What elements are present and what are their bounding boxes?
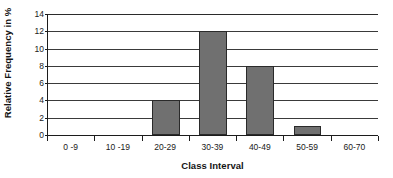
bar-series xyxy=(48,14,378,135)
x-tick-mark xyxy=(378,136,379,141)
bar-slot xyxy=(284,14,331,135)
y-axis-title: Relative Frequency in % xyxy=(0,0,14,152)
x-tick-mark xyxy=(331,136,332,141)
y-tick-label: 6 xyxy=(39,78,44,88)
y-tick-label: 14 xyxy=(35,9,44,19)
y-tick-label: 4 xyxy=(39,95,44,105)
bar xyxy=(199,31,226,135)
y-tick-label: 0 xyxy=(39,130,44,140)
y-tick-label: 10 xyxy=(35,44,44,54)
x-tick-label: 40-49 xyxy=(236,142,283,156)
bar-slot xyxy=(48,14,95,135)
bar-chart: Relative Frequency in % 02468101214 0 -9… xyxy=(0,0,393,178)
bar xyxy=(246,66,273,135)
x-axis-tick-labels: 0 -910 -1920-2930-3940-4950-5960-70 xyxy=(47,142,378,156)
bar-slot xyxy=(95,14,142,135)
x-tick-label: 0 -9 xyxy=(47,142,94,156)
x-tick-mark xyxy=(236,136,237,141)
x-tick-label: 60-70 xyxy=(331,142,378,156)
x-axis-title: Class Interval xyxy=(47,160,378,171)
bar xyxy=(152,100,179,135)
y-tick-label: 2 xyxy=(39,113,44,123)
x-tick-mark xyxy=(189,136,190,141)
x-tick-mark xyxy=(47,136,48,141)
x-tick-mark xyxy=(94,136,95,141)
x-tick-mark xyxy=(283,136,284,141)
x-axis-ticks xyxy=(47,136,378,141)
bar xyxy=(294,126,321,135)
bar-slot xyxy=(237,14,284,135)
plot-area: 02468101214 xyxy=(47,14,378,136)
x-tick-label: 50-59 xyxy=(283,142,330,156)
x-tick-label: 20-29 xyxy=(142,142,189,156)
x-tick-label: 10 -19 xyxy=(94,142,141,156)
x-tick-mark xyxy=(142,136,143,141)
bar-slot xyxy=(331,14,378,135)
y-tick-label: 12 xyxy=(35,26,44,36)
bar-slot xyxy=(189,14,236,135)
x-tick-label: 30-39 xyxy=(189,142,236,156)
bar-slot xyxy=(142,14,189,135)
y-tick-label: 8 xyxy=(39,61,44,71)
